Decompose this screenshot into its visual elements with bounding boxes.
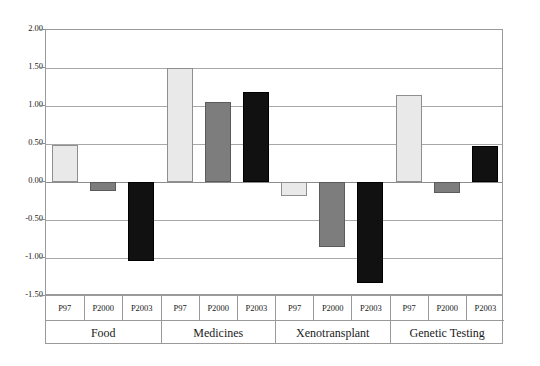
x-axis-series-row: P97P2000P2003 [276, 296, 390, 320]
x-axis-group-label: Food [46, 320, 161, 345]
gridline--1.00 [46, 258, 502, 259]
x-axis-series-label: P97 [276, 296, 313, 320]
bar-xenotransplant-p97 [281, 182, 307, 196]
y-tick-label: 1.00 [3, 100, 43, 109]
bar-food-p2000 [90, 182, 116, 191]
x-axis-group-xenotransplant: P97P2000P2003Xenotransplant [275, 296, 390, 344]
bar-xenotransplant-p2000 [319, 182, 345, 247]
x-axis-series-label: P2000 [313, 296, 351, 320]
y-tick-label: -0.50 [3, 214, 43, 223]
gridline-0.50 [46, 144, 502, 145]
bar-medicines-p97 [167, 68, 193, 182]
gridline-1.50 [46, 68, 502, 69]
x-axis-series-label: P2003 [351, 296, 389, 320]
y-tick-label: 0.00 [3, 176, 43, 185]
x-axis-group-genetic-testing: P97P2000P2003Genetic Testing [390, 296, 505, 344]
x-axis-group-label: Medicines [162, 320, 276, 345]
x-axis-group-label: Genetic Testing [391, 320, 505, 345]
bar-genetic-testing-p97 [396, 95, 422, 182]
bar-genetic-testing-p2000 [434, 182, 460, 193]
gridline-1.00 [46, 106, 502, 107]
x-axis-group-label: Xenotransplant [276, 320, 390, 345]
x-axis-label-table: P97P2000P2003FoodP97P2000P2003MedicinesP… [45, 295, 503, 343]
y-axis: 2.001.501.000.500.00-0.50-1.00-1.50 [0, 0, 43, 366]
x-axis-bottom-border [45, 343, 503, 344]
x-axis-series-label: P2003 [237, 296, 275, 320]
x-axis-series-row: P97P2000P2003 [46, 296, 161, 320]
y-tick-label: 0.50 [3, 138, 43, 147]
bar-medicines-p2003 [243, 92, 269, 182]
x-axis-series-label: P2003 [122, 296, 161, 320]
x-axis-group-medicines: P97P2000P2003Medicines [161, 296, 276, 344]
x-axis-series-label: P2000 [84, 296, 123, 320]
x-axis-series-label: P97 [46, 296, 84, 320]
y-tick-label: 1.50 [3, 62, 43, 71]
y-tick-label: -1.50 [3, 290, 43, 299]
x-axis-series-label: P97 [391, 296, 428, 320]
x-axis-group-food: P97P2000P2003Food [46, 296, 161, 344]
plot-area [45, 29, 503, 295]
bar-xenotransplant-p2003 [357, 182, 383, 283]
y-tick-label: 2.00 [3, 24, 43, 33]
x-axis-series-row: P97P2000P2003 [391, 296, 505, 320]
x-axis-series-label: P2003 [466, 296, 504, 320]
bar-chart: 2.001.501.000.500.00-0.50-1.00-1.50 P97P… [0, 0, 540, 366]
x-axis-series-label: P2000 [428, 296, 466, 320]
bar-food-p97 [52, 145, 78, 182]
y-tick-label: -1.00 [3, 252, 43, 261]
bar-genetic-testing-p2003 [472, 146, 498, 182]
x-axis-series-label: P2000 [199, 296, 237, 320]
bar-medicines-p2000 [205, 102, 231, 182]
gridline--0.50 [46, 220, 502, 221]
x-axis-series-row: P97P2000P2003 [162, 296, 276, 320]
x-axis-series-label: P97 [162, 296, 199, 320]
bar-food-p2003 [128, 182, 154, 261]
